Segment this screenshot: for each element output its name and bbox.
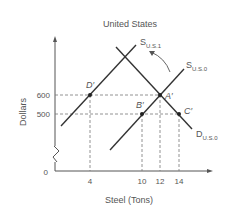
supply-demand-chart: United States D′ A′ B′ C′ SU.S.1 SU.S.0 … xyxy=(0,0,236,217)
guide-lines xyxy=(55,95,179,171)
label-c: C′ xyxy=(184,106,192,116)
x-axis-label: Steel (Tons) xyxy=(105,195,153,205)
origin-label: 0 xyxy=(44,168,49,177)
demand-curve-us0 xyxy=(116,47,192,129)
label-b: B′ xyxy=(136,100,144,110)
y-tick-600: 600 xyxy=(37,91,51,100)
y-tick-500: 500 xyxy=(37,110,51,119)
label-a: A′ xyxy=(164,91,173,101)
point-b xyxy=(140,112,144,116)
d-label: DU.S.0 xyxy=(196,129,218,141)
point-a xyxy=(158,93,162,97)
s0-label: SU.S.0 xyxy=(186,60,208,72)
chart-container: United States D′ A′ B′ C′ SU.S.1 SU.S.0 … xyxy=(0,0,236,217)
x-axis-arrow-icon xyxy=(207,169,213,173)
point-c xyxy=(177,112,181,116)
shift-arrow xyxy=(151,52,170,72)
x-tick-4: 4 xyxy=(88,177,93,186)
x-tick-10: 10 xyxy=(138,177,147,186)
point-d xyxy=(88,93,92,97)
y-axis-arrow-icon xyxy=(53,36,57,42)
s1-label: SU.S.1 xyxy=(140,37,162,49)
x-tick-12: 12 xyxy=(156,177,165,186)
y-axis-label: Dollars xyxy=(18,98,28,127)
chart-title: United States xyxy=(103,19,158,29)
x-tick-14: 14 xyxy=(175,177,184,186)
label-d: D′ xyxy=(86,80,94,90)
